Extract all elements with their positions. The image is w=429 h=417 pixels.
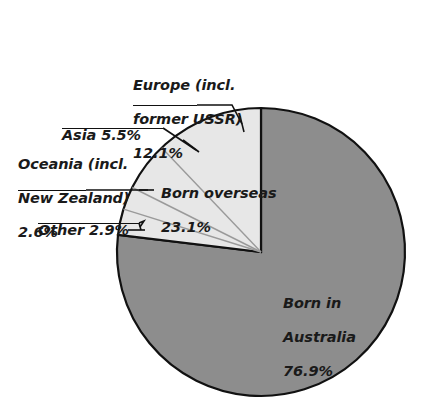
label-other-line1: Other 2.9% <box>38 222 158 239</box>
label-born-in-australia-line1: Born in <box>283 295 393 312</box>
label-born-in-australia: Born in Australia 76.9% <box>283 278 393 397</box>
label-born-overseas-line1: Born overseas <box>161 185 281 202</box>
label-oceania-underline <box>18 190 86 191</box>
label-oceania-line1: Oceania (incl. <box>18 156 143 173</box>
label-born-in-australia-line3: 76.9% <box>283 363 393 380</box>
pie-chart-figure: Europe (incl. former USSR) 12.1% Asia 5.… <box>0 0 429 417</box>
label-other-underline <box>38 223 139 224</box>
label-other: Other 2.9% <box>38 205 158 256</box>
label-europe-line1: Europe (incl. <box>133 77 253 94</box>
label-asia-underline <box>62 128 163 129</box>
label-born-overseas-line2: 23.1% <box>161 219 281 236</box>
label-europe-underline <box>133 105 197 106</box>
label-born-overseas: Born overseas 23.1% <box>161 168 281 253</box>
label-born-in-australia-line2: Australia <box>283 329 393 346</box>
